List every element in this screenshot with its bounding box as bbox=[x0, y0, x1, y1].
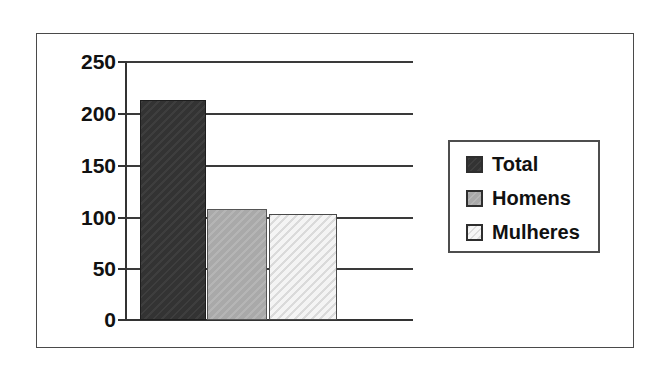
legend-swatch-mulheres-icon bbox=[466, 224, 483, 241]
legend-swatch-total-icon bbox=[466, 156, 483, 173]
legend-item-mulheres: Mulheres bbox=[466, 219, 580, 245]
legend-swatch-homens-icon bbox=[466, 190, 483, 207]
chart-figure: 250 200 150 100 50 0 Total Homens bbox=[0, 0, 671, 372]
legend-item-total: Total bbox=[466, 151, 538, 177]
legend-label-mulheres: Mulheres bbox=[492, 222, 580, 242]
legend-label-total: Total bbox=[492, 154, 538, 174]
legend: Total Homens Mulheres bbox=[448, 140, 600, 253]
legend-label-homens: Homens bbox=[492, 188, 571, 208]
legend-item-homens: Homens bbox=[466, 185, 571, 211]
